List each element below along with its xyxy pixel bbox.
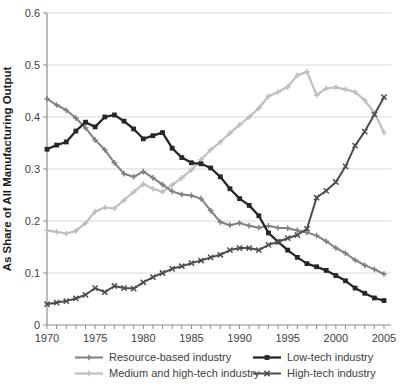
series-medium-and-high-tech-industry: [44, 69, 387, 236]
data-point-marker: [372, 296, 377, 301]
data-point-marker: [333, 273, 338, 278]
data-point-marker: [324, 268, 329, 273]
data-point-marker: [362, 291, 367, 296]
data-point-marker: [199, 161, 204, 166]
y-tick-label: 0.3: [25, 163, 40, 175]
x-tick-label: 1980: [131, 332, 155, 344]
data-point-marker: [256, 225, 262, 231]
data-point-marker: [64, 140, 69, 145]
legend-item-low-tech: Low-tech industry: [252, 350, 376, 365]
x-tick-label: 1985: [179, 332, 203, 344]
data-point-marker: [353, 286, 358, 291]
data-point-marker: [275, 225, 281, 231]
legend-label-low-tech: Low-tech industry: [287, 350, 373, 365]
data-point-marker: [218, 174, 223, 179]
y-tick-label: 0.6: [25, 7, 40, 19]
data-point-marker: [189, 160, 194, 165]
legend-item-medium-high-tech: Medium and high-tech industry: [74, 366, 252, 381]
y-tick-label: 0.1: [25, 267, 40, 279]
data-point-marker: [324, 188, 329, 193]
y-tick-label: 0.5: [25, 59, 40, 71]
data-point-marker: [228, 186, 233, 191]
data-point-marker: [246, 223, 252, 229]
data-point-marker: [343, 278, 348, 283]
data-point-marker: [112, 113, 117, 118]
y-tick-label: 0.4: [25, 111, 40, 123]
x-tick-label: 1970: [35, 332, 59, 344]
data-point-marker: [63, 231, 69, 237]
legend-item-resource-based: Resource-based industry: [74, 350, 252, 365]
data-point-marker: [54, 143, 59, 148]
series-line: [47, 72, 384, 234]
legend-marker-low-tech: [252, 352, 282, 363]
data-point-marker: [170, 146, 175, 151]
legend-marker-high-tech: [252, 368, 282, 379]
x-tick-label: 1990: [227, 332, 251, 344]
x-tick-label: 1975: [83, 332, 107, 344]
data-point-marker: [333, 85, 339, 91]
data-point-marker: [86, 371, 92, 377]
data-point-marker: [179, 155, 184, 160]
data-point-marker: [73, 129, 78, 134]
data-point-marker: [44, 228, 50, 234]
data-point-marker: [285, 225, 291, 231]
data-point-marker: [305, 261, 310, 266]
data-point-marker: [343, 87, 349, 93]
data-point-marker: [160, 130, 165, 135]
data-point-marker: [314, 264, 319, 269]
series-resource-based-industry: [44, 96, 387, 277]
data-point-marker: [102, 115, 107, 120]
data-point-marker: [83, 120, 88, 125]
chart-legend: Resource-based industry Low-tech industr…: [74, 350, 376, 381]
data-point-marker: [54, 229, 60, 235]
y-tick-label: 0: [34, 319, 40, 331]
legend-label-high-tech: High-tech industry: [287, 366, 376, 381]
x-tick-label: 1995: [275, 332, 299, 344]
data-point-marker: [45, 147, 50, 152]
y-axis-title: As Share of All Manufacturing Output: [1, 67, 13, 272]
data-point-marker: [382, 298, 387, 303]
data-point-marker: [285, 248, 290, 253]
data-point-marker: [208, 166, 213, 171]
legend-label-resource-based: Resource-based industry: [109, 350, 231, 365]
x-tick-label: 2005: [372, 332, 396, 344]
legend-marker-resource-based: [74, 352, 104, 363]
data-point-marker: [266, 231, 271, 236]
data-point-marker: [93, 124, 98, 129]
x-tick-label: 2000: [324, 332, 348, 344]
data-point-marker: [295, 255, 300, 260]
data-point-marker: [247, 203, 252, 208]
data-point-marker: [122, 119, 127, 124]
data-point-marker: [131, 127, 136, 132]
legend-label-medium-high-tech: Medium and high-tech industry: [109, 366, 259, 381]
data-point-marker: [151, 133, 156, 138]
data-point-marker: [227, 222, 233, 228]
plot-area: 00.10.20.30.40.50.6197019751980198519901…: [0, 0, 408, 350]
data-point-marker: [237, 196, 242, 201]
data-point-marker: [141, 136, 146, 141]
manufacturing-output-share-chart: 00.10.20.30.40.50.6197019751980198519901…: [0, 0, 408, 392]
data-point-marker: [265, 355, 270, 360]
data-point-marker: [86, 355, 92, 361]
data-point-marker: [189, 193, 195, 199]
data-point-marker: [256, 213, 261, 218]
legend-item-high-tech: High-tech industry: [252, 366, 376, 381]
legend-marker-medium-high-tech: [74, 368, 104, 379]
y-tick-label: 0.2: [25, 215, 40, 227]
data-point-marker: [179, 192, 185, 198]
